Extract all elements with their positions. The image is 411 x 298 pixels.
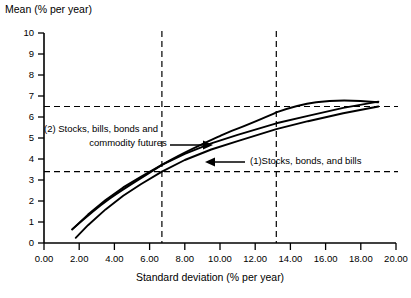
- x-tick-label-10: 10.00: [200, 254, 240, 264]
- y-tick-label-10: 10: [10, 28, 34, 38]
- y-tick-label-9: 9: [10, 49, 34, 59]
- y-axis-title: Mean (% per year): [5, 4, 92, 15]
- annotation-curve-2-line1: (2) Stocks, bills, bonds and: [44, 124, 158, 134]
- y-tick-label-2: 2: [10, 196, 34, 206]
- y-tick-label-4: 4: [10, 154, 34, 164]
- y-tick-label-5: 5: [10, 133, 34, 143]
- annotation-arrow-left: [205, 158, 245, 167]
- y-tick-label-1: 1: [10, 217, 34, 227]
- x-tick-label-4: 4.00: [94, 254, 134, 264]
- y-tick-label-8: 8: [10, 70, 34, 80]
- x-tick-label-8: 8.00: [165, 254, 205, 264]
- x-axis-ticks: [44, 243, 396, 250]
- x-tick-label-12: 12.00: [235, 254, 275, 264]
- x-tick-label-2: 2.00: [59, 254, 99, 264]
- x-tick-label-16: 16.00: [306, 254, 346, 264]
- y-tick-label-7: 7: [10, 91, 34, 101]
- y-tick-label-0: 0: [10, 238, 34, 248]
- y-tick-label-3: 3: [10, 175, 34, 185]
- x-tick-label-18: 18.00: [341, 254, 381, 264]
- x-tick-label-20: 20.00: [376, 254, 411, 264]
- y-tick-label-6: 6: [10, 112, 34, 122]
- annotation-curve-2-line2: commodity futures: [44, 138, 212, 148]
- x-axis-title: Standard deviation (% per year): [130, 272, 290, 283]
- annotation-curve-1-label: (1)Stocks, bonds, and bills: [250, 156, 361, 166]
- chart-figure: Mean (% per year) 10 9 8 7 6 5 4 3 2 1 0…: [0, 0, 411, 298]
- x-tick-label-14: 14.00: [270, 254, 310, 264]
- x-tick-label-6: 6.00: [130, 254, 170, 264]
- x-tick-label-0: 0.00: [24, 254, 64, 264]
